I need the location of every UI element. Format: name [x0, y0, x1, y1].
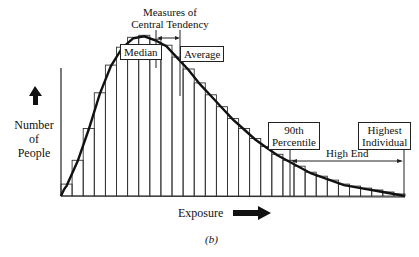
average-box: Average: [180, 46, 224, 62]
histogram-bar: [272, 154, 283, 196]
histogram-bar: [283, 160, 294, 196]
histogram-bar: [183, 69, 194, 196]
histogram-bar: [161, 45, 172, 196]
histogram-bars: [61, 35, 405, 196]
histogram-bar: [72, 160, 83, 196]
histogram-bar: [294, 166, 305, 196]
histogram-bar: [194, 83, 205, 196]
histogram-bar: [105, 65, 116, 196]
distribution-curve: [61, 36, 405, 196]
y-axis-label: Number of People: [8, 118, 60, 160]
high-end-label: High End: [326, 147, 368, 159]
histogram-bar: [250, 139, 261, 197]
histogram-bar: [228, 119, 239, 196]
percentile-box: 90th Percentile: [268, 122, 320, 150]
x-axis-label: Exposure: [178, 207, 223, 219]
histogram-bar: [239, 129, 250, 197]
histogram-bar: [117, 47, 128, 196]
figure-caption: (b): [205, 233, 218, 245]
histogram-bar: [172, 57, 183, 196]
histogram-bar: [150, 39, 161, 196]
histogram-bar: [205, 95, 216, 196]
up-arrow-icon: [29, 86, 42, 105]
median-box: Median: [120, 44, 162, 60]
histogram-bar: [261, 146, 272, 196]
right-arrow-icon: [233, 206, 271, 220]
histogram-bar: [128, 37, 139, 196]
measures-label: Measures of Central Tendency: [130, 6, 210, 30]
highest-box: Highest Individual: [358, 122, 411, 150]
histogram-bar: [216, 107, 227, 196]
